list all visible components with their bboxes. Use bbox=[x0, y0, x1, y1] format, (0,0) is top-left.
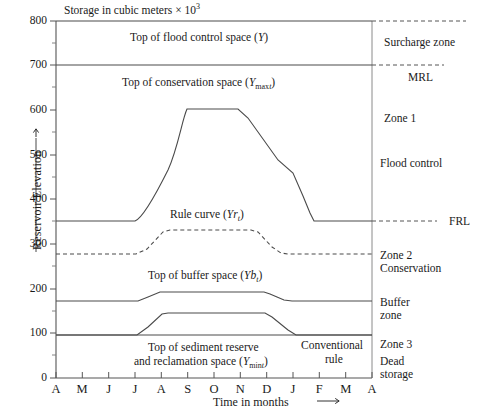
annotation-buffer-space: Top of buffer space (Ybt) bbox=[148, 269, 262, 284]
right-label-mrl: MRL bbox=[408, 71, 433, 83]
annotation-rule-curve: Rule curve (Yrt) bbox=[170, 208, 244, 223]
x-label-month-6: S bbox=[178, 382, 198, 397]
right-label-conservation: Conservation bbox=[380, 262, 441, 274]
right-label-buffer: Buffer bbox=[380, 296, 410, 308]
x-label-month-5: A bbox=[151, 382, 171, 397]
right-label-storage: storage bbox=[380, 368, 413, 380]
y-axis-title: Reservoir Elevation bbox=[30, 151, 45, 250]
y-tick-200: 200 bbox=[18, 282, 47, 294]
x-axis-arrow-icon bbox=[317, 398, 339, 403]
series-buffer-space-top bbox=[56, 292, 372, 301]
annotation-flood-control-space: Top of flood control space (Y) bbox=[130, 31, 268, 43]
x-label-month-13: A bbox=[362, 382, 382, 397]
top-title-exponent: 3 bbox=[196, 2, 200, 11]
y-tick-0: 0 bbox=[18, 371, 47, 383]
right-label-buffer-zone: zone bbox=[380, 309, 402, 321]
y-axis-arrow-icon bbox=[33, 129, 38, 137]
y-tick-600: 600 bbox=[18, 103, 47, 115]
annotation-conventional-rule-line2: rule bbox=[325, 353, 343, 365]
x-label-month-3: J bbox=[99, 382, 119, 397]
right-label-zone-2: Zone 2 bbox=[380, 249, 412, 261]
annotation-sediment-reserve-line2: and reclamation space (Ymint) bbox=[134, 355, 268, 370]
y-tick-700: 700 bbox=[18, 58, 47, 70]
right-label-zone-3: Zone 3 bbox=[380, 338, 412, 350]
series-sediment-reserve-top bbox=[56, 313, 372, 335]
annotation-conventional-rule-line1: Conventional bbox=[301, 339, 363, 351]
y-tick-100: 100 bbox=[18, 326, 47, 338]
y-tick-800: 800 bbox=[18, 14, 47, 26]
right-label-surcharge-zone: Surcharge zone bbox=[384, 36, 455, 48]
x-label-month-11: F bbox=[309, 382, 329, 397]
x-ticks bbox=[56, 372, 372, 378]
right-label-dead: Dead bbox=[380, 355, 404, 367]
right-label-frl: FRL bbox=[449, 215, 470, 227]
x-label-month-4: J bbox=[125, 382, 145, 397]
chart-top-title: Storage in cubic meters × 103 bbox=[64, 2, 200, 16]
series-rule-curve-solid bbox=[56, 109, 372, 221]
x-label-month-12: M bbox=[336, 382, 356, 397]
x-label-month-2: M bbox=[72, 382, 92, 397]
annotation-conservation-space: Top of conservation space (Ymaxt) bbox=[122, 76, 275, 91]
x-label-month-1: A bbox=[46, 382, 66, 397]
right-label-flood-control: Flood control bbox=[380, 157, 442, 169]
right-label-zone-1: Zone 1 bbox=[384, 112, 416, 124]
y-major-ticks bbox=[50, 21, 56, 378]
annotation-sediment-reserve-line1: Top of sediment reserve bbox=[148, 341, 259, 353]
x-axis-title: Time in months bbox=[213, 395, 289, 410]
axes-group bbox=[56, 21, 372, 378]
series-rule-curve-dashed bbox=[56, 230, 372, 254]
reservoir-rule-curve-chart: Storage in cubic meters × 103 800 700 60… bbox=[0, 0, 482, 420]
